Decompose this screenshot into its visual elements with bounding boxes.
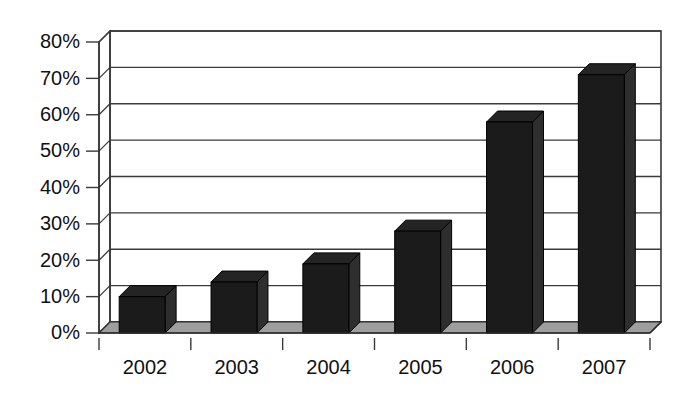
x-tick-label: 2003 — [215, 356, 260, 378]
bar-2006 — [487, 111, 544, 333]
y-tick-label: 50% — [40, 139, 80, 161]
y-tick-label: 60% — [40, 103, 80, 125]
x-tick-label: 2007 — [582, 356, 627, 378]
bar-2004 — [303, 253, 360, 333]
bar-2003 — [211, 271, 268, 333]
x-tick-label: 2002 — [123, 356, 168, 378]
y-tick-label: 80% — [40, 30, 80, 52]
y-tick-label: 30% — [40, 212, 80, 234]
bar-2002 — [119, 286, 176, 333]
x-tick-label: 2005 — [398, 356, 443, 378]
chart-floor — [99, 322, 661, 333]
plot-area-walls — [99, 31, 661, 333]
y-tick-label: 40% — [40, 176, 80, 198]
bar-2005 — [395, 220, 452, 333]
x-axis-tick-labels: 200220032004200520062007 — [123, 356, 627, 378]
bar-2007 — [578, 64, 635, 333]
x-axis-ticks — [99, 338, 650, 350]
y-tick-label: 0% — [51, 321, 80, 343]
chart-canvas: 0%10%20%30%40%50%60%70%80% 2002200320042… — [0, 0, 685, 394]
y-tick-label: 20% — [40, 249, 80, 271]
bar-chart: 0%10%20%30%40%50%60%70%80% 2002200320042… — [0, 0, 685, 394]
y-axis-tick-labels: 0%10%20%30%40%50%60%70%80% — [40, 30, 80, 343]
y-axis-ticks — [86, 42, 99, 333]
y-tick-label: 70% — [40, 67, 80, 89]
y-tick-label: 10% — [40, 285, 80, 307]
x-tick-label: 2006 — [490, 356, 535, 378]
x-tick-label: 2004 — [306, 356, 351, 378]
